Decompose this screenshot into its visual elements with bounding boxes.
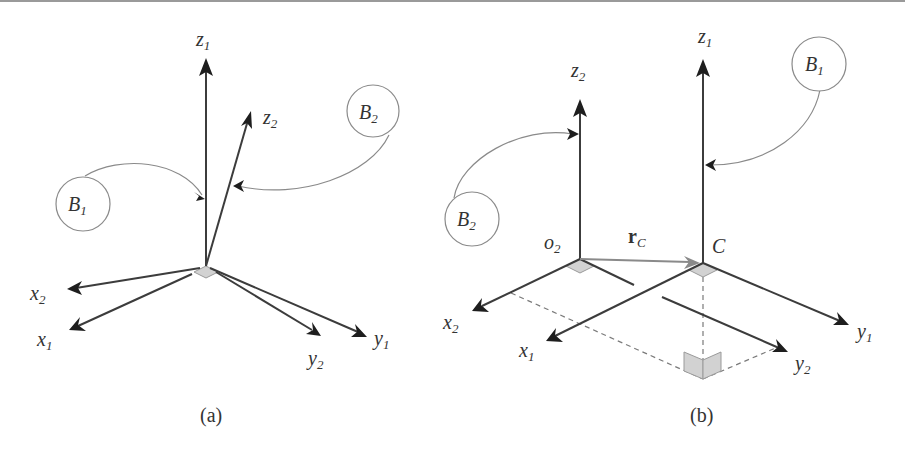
y2-label: y2 bbox=[793, 352, 811, 377]
y2-axis-near bbox=[580, 259, 634, 285]
x2-label: x2 bbox=[29, 282, 46, 307]
z1-label: z1 bbox=[195, 28, 210, 53]
y1-label: y1 bbox=[855, 320, 872, 345]
o2-point-label: o2 bbox=[544, 231, 561, 256]
x2-label: x2 bbox=[442, 311, 459, 336]
rc-vector-label: rC bbox=[628, 225, 646, 250]
x2-arrowhead-icon bbox=[472, 298, 489, 312]
y2-label: y2 bbox=[306, 347, 324, 372]
z1-label: z1 bbox=[697, 25, 712, 50]
y1-axis bbox=[703, 263, 840, 321]
caption-b: (b) bbox=[690, 404, 713, 427]
b2-connector-curve bbox=[454, 133, 573, 198]
b2-connector-arrowhead-icon bbox=[567, 128, 579, 140]
coordinate-frames-diagram: z1 z2 x2 x1 y2 y1 B1 B2 (a) bbox=[0, 0, 905, 458]
x2-projection-dashed bbox=[511, 293, 703, 379]
rc-vector-line bbox=[580, 259, 690, 262]
x1-axis bbox=[78, 274, 192, 326]
x2-axis bbox=[482, 259, 580, 306]
y2-axis-far bbox=[662, 297, 779, 348]
x1-label: x1 bbox=[518, 339, 534, 364]
y1-label: y1 bbox=[372, 327, 389, 352]
panel-b: z2 x2 y2 o2 rC z1 x1 y1 C B2 B bbox=[442, 25, 872, 427]
x1-label: x1 bbox=[36, 328, 52, 353]
z2-label: z2 bbox=[262, 106, 278, 131]
caption-a: (a) bbox=[200, 404, 222, 427]
z2-label: z2 bbox=[570, 59, 586, 84]
corner-marker-right bbox=[703, 352, 721, 379]
b2-connector-curve bbox=[238, 135, 389, 190]
panel-a: z1 z2 x2 x1 y2 y1 B1 B2 (a) bbox=[29, 28, 399, 427]
z2-axis bbox=[206, 120, 248, 266]
b1-connector-arrowhead-icon bbox=[194, 192, 205, 201]
o2-right-angle-patch bbox=[566, 259, 594, 273]
b2-connector-arrowhead-icon bbox=[233, 180, 244, 192]
c-point-label: C bbox=[712, 235, 726, 257]
x1-axis bbox=[555, 263, 703, 336]
b1-connector-curve bbox=[710, 90, 820, 165]
y1-axis bbox=[210, 268, 358, 332]
y2-arrowhead-icon bbox=[306, 322, 321, 336]
x1-arrowhead-icon bbox=[546, 328, 563, 342]
y2-axis bbox=[216, 272, 312, 330]
corner-marker-left bbox=[684, 352, 703, 379]
